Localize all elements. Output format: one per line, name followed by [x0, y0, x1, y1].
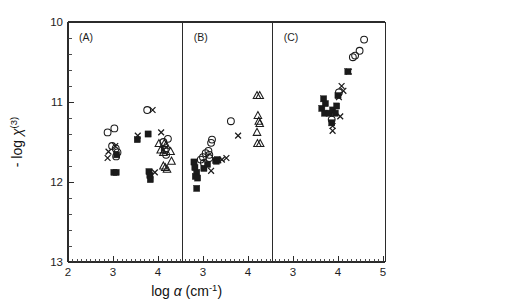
- scatter-figure: 10111213234(A)34(B)345(C)log α (cm-1)- l…: [0, 0, 519, 300]
- marker-cross: [106, 149, 112, 155]
- panel-label-b: (B): [194, 31, 208, 43]
- y-tick-label: 11: [51, 96, 63, 108]
- y-tick-label: 13: [50, 256, 63, 268]
- panel-data-a: [104, 107, 175, 183]
- marker-square-filled: [114, 152, 120, 158]
- marker-square-filled: [195, 175, 201, 181]
- y-axis-title-prefix: - log: [9, 136, 25, 167]
- x-tick-label: 4: [335, 266, 342, 278]
- panel-label-c: (C): [284, 31, 299, 43]
- marker-circle-open: [352, 52, 359, 59]
- series-filled-square: [191, 157, 221, 192]
- x-tick-label: 3: [290, 266, 296, 278]
- y-axis-title-sup: (3): [8, 117, 19, 129]
- marker-square-filled: [145, 131, 151, 137]
- x-axis-title: log α (cm-1): [151, 282, 222, 299]
- marker-square-filled: [204, 161, 210, 167]
- series-filled-square: [111, 131, 154, 183]
- x-tick-label: 4: [155, 266, 162, 278]
- marker-square-filled: [147, 177, 153, 183]
- marker-circle-open: [104, 129, 111, 136]
- y-tick-label: 12: [50, 176, 63, 188]
- marker-square-filled: [334, 103, 340, 109]
- x-tick-label: 2: [65, 266, 71, 278]
- marker-cross: [105, 155, 111, 161]
- marker-square-filled: [194, 185, 200, 191]
- marker-square-filled: [113, 169, 119, 175]
- x-axis-title-units-sup: -1: [209, 282, 217, 293]
- y-axis-title-chi: χ: [9, 128, 25, 138]
- x-tick-label: 3: [200, 266, 206, 278]
- marker-square-filled: [345, 69, 351, 75]
- x-tick-label: 3: [110, 266, 116, 278]
- marker-triangle-open: [253, 128, 261, 135]
- marker-circle-open: [349, 54, 356, 61]
- x-tick-label: 5: [380, 266, 386, 278]
- marker-cross: [158, 130, 164, 136]
- figure-root: 10111213234(A)34(B)345(C)log α (cm-1)- l…: [0, 0, 519, 300]
- marker-cross: [235, 133, 241, 139]
- panel-data-b: [191, 92, 264, 192]
- panel-data-c: [319, 36, 368, 134]
- y-tick-label: 10: [50, 16, 63, 28]
- series-open-triangle: [253, 92, 264, 147]
- marker-cross: [208, 168, 214, 174]
- series-cross: [208, 133, 241, 174]
- y-axis-title: - log χ(3): [8, 117, 25, 167]
- marker-triangle-open: [254, 112, 262, 119]
- marker-square-filled: [332, 110, 338, 116]
- marker-circle-open: [228, 118, 235, 125]
- x-axis-title-units-close: ): [217, 283, 222, 299]
- panel-label-a: (A): [79, 31, 93, 43]
- marker-circle-open: [111, 125, 118, 132]
- x-axis-title-units-open: (cm: [182, 283, 209, 299]
- marker-cross: [339, 83, 345, 89]
- plot-canvas: 10111213234(A)34(B)345(C)log α (cm-1)- l…: [0, 0, 519, 300]
- x-tick-label: 4: [245, 266, 252, 278]
- x-axis-title-log: log: [151, 283, 174, 299]
- marker-triangle-open: [168, 157, 176, 164]
- marker-cross: [330, 128, 336, 134]
- marker-circle-open: [361, 36, 368, 43]
- marker-square-filled: [191, 159, 197, 165]
